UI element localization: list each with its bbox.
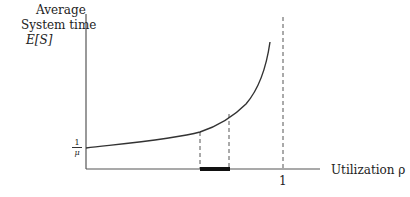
y-axis-label-line3: E[S] bbox=[26, 33, 52, 47]
y-axis-label-line1: Average bbox=[36, 3, 86, 17]
y-tick-denominator: μ bbox=[72, 148, 82, 157]
y-axis-label-line2: System time bbox=[21, 18, 96, 32]
y-tick-numerator: 1 bbox=[72, 138, 82, 148]
x-tick-one: 1 bbox=[279, 174, 287, 188]
x-axis-label: Utilization ρ bbox=[331, 163, 405, 177]
y-tick-one-over-mu: 1 μ bbox=[72, 138, 82, 157]
system-time-curve bbox=[86, 42, 270, 148]
